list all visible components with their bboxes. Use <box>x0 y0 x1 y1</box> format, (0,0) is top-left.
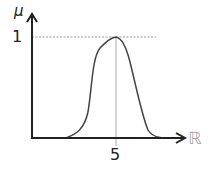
membership-diagram: μ 1 5 ℝ <box>0 0 212 170</box>
y-axis-label: μ <box>14 2 24 20</box>
y-tick-label: 1 <box>12 27 22 46</box>
diagram-canvas <box>0 0 212 170</box>
x-axis-label: ℝ <box>188 128 201 148</box>
membership-curve <box>66 37 162 138</box>
x-tick-label: 5 <box>110 145 120 164</box>
